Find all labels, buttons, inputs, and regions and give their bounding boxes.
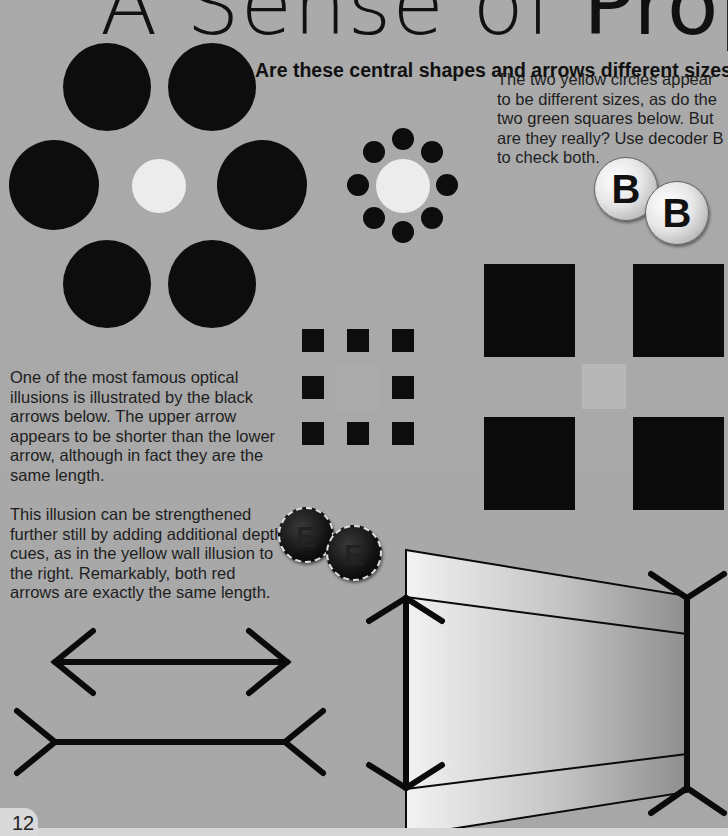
squares-small-figure [302,329,414,445]
muller-lyer-paragraph: One of the most famous optical illusions… [10,368,280,485]
wall-illusion-paragraph: This illusion can be strengthened furthe… [10,505,285,603]
page-number: 12 [0,808,38,836]
decoder-b-icon: B [645,181,709,245]
footer-strip [38,828,728,836]
wall-illusion [369,550,724,836]
muller-lyer-arrows [17,631,323,773]
ebbinghaus-large-figure [9,43,307,328]
decoder-e-icon: E [326,525,382,581]
squares-large-figure [484,264,724,510]
ebbinghaus-small-figure [347,128,458,243]
page: A Sense of Proportion Are these central … [0,0,728,836]
decoder-b-paragraph: The two yellow circles appear to be diff… [497,70,728,168]
